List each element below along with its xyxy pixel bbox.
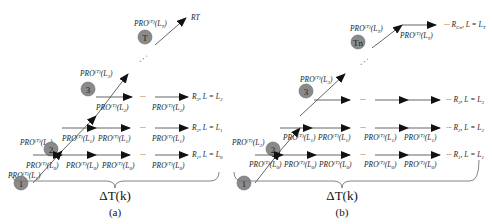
b-row2-label-1: PRO(T)(L1) — [282, 133, 316, 143]
b-top-end: ··· RCn, L = LT — [444, 20, 487, 30]
end-label-RT: RT — [190, 13, 201, 22]
b-row1-label-3: PRO(T)(L0) — [318, 160, 352, 170]
row1-label-4: PRO(T)(L0) — [151, 161, 185, 171]
b-delta-t-label: ΔT(k) — [326, 188, 357, 203]
row2-label-2: PRO(T)(L1) — [97, 134, 131, 144]
dots-icon: ⋰ — [139, 54, 147, 63]
row1-label-2: PRO(T)(L0) — [65, 161, 99, 171]
b-node-Tn: Tn — [351, 35, 365, 49]
b-row1-label-4: PRO(T)(L0) — [363, 160, 397, 170]
delta-t-brace — [11, 172, 219, 188]
row1-end: R1, L = L0 — [191, 150, 223, 160]
row2-end: R2, L = L1 — [191, 123, 222, 133]
b-row3-ellipsis: ··· — [360, 95, 366, 104]
node-2: 2 — [44, 142, 58, 156]
panel-b: ⋰ ··· RCn, L = LT PRO(T)(LT) PRO(T)(LT) … — [231, 20, 487, 219]
panel-a: ⋰ RT PRO(T)(L1) PRO(T)(L2) PRO(T)(L3) PR… — [7, 13, 223, 219]
b-row2-label-2: PRO(T)(L1) — [317, 133, 351, 143]
row1-label-1: PRO(T)(L0) — [25, 161, 59, 171]
svg-text:T: T — [142, 33, 148, 43]
b-row1-label-2: PRO(T)(L0) — [283, 160, 317, 170]
b-row2-ellipsis: ··· — [360, 123, 366, 132]
b-row1-ellipsis: ··· — [360, 150, 366, 159]
b-row1-label-1: PRO(T)(L0) — [248, 160, 282, 170]
row3-label-2: PRO(T)(L2) — [151, 103, 185, 113]
row3-label-1: PRO(T)(L2) — [95, 103, 129, 113]
b-row2-label-4: PRO(T)(L1) — [403, 133, 437, 143]
b-dots-icon: ⋰ — [360, 57, 368, 66]
svg-text:3: 3 — [304, 87, 309, 97]
caption-a: (a) — [109, 206, 122, 219]
b-diag-label-L2: PRO(T)(L2) — [231, 138, 265, 148]
diag-label-LT: PRO(T)(LT) — [133, 19, 167, 29]
b-node-2: 2 — [266, 142, 280, 156]
caption-b: (b) — [336, 206, 349, 219]
diag-label-L3: PRO(T)(L3) — [79, 69, 113, 79]
svg-text:Tn: Tn — [353, 38, 363, 48]
b-diag-label-LT: PRO(T)(LT) — [349, 24, 383, 34]
row3-ellipsis: ··· — [140, 92, 146, 101]
process-route-diagram: ⋰ RT PRO(T)(L1) PRO(T)(L2) PRO(T)(L3) PR… — [0, 0, 492, 224]
row3-end: R3, L = L2 — [191, 92, 223, 102]
svg-text:3: 3 — [86, 85, 91, 95]
b-row1-label-5: PRO(T)(L0) — [403, 160, 437, 170]
row2-label-1: PRO(T)(L1) — [61, 134, 95, 144]
node-1: 1 — [14, 176, 28, 190]
svg-text:1: 1 — [242, 179, 247, 189]
svg-text:2: 2 — [271, 145, 276, 155]
row1-ellipsis: ··· — [140, 150, 146, 159]
svg-text:1: 1 — [19, 179, 24, 189]
delta-t-label: ΔT(k) — [99, 188, 130, 203]
svg-text:2: 2 — [49, 145, 54, 155]
b-top-label: PRO(T)(LT) — [399, 31, 433, 41]
b-row3-end: ··· R3, L = L3 — [446, 95, 484, 105]
row2-ellipsis: ··· — [140, 123, 146, 132]
b-row1-end: ··· R1, L = L1 — [446, 150, 484, 160]
b-node-3: 3 — [299, 84, 313, 98]
b-diag-label-L3: PRO(T)(L3) — [299, 75, 333, 85]
node-3: 3 — [81, 82, 95, 96]
row2-label-3: PRO(T)(L1) — [151, 134, 185, 144]
b-node-1: 1 — [237, 176, 251, 190]
b-row2-end: ··· R2, L = L2 — [446, 123, 484, 133]
b-row2-label-3: PRO(T)(L1) — [363, 133, 397, 143]
node-T: T — [138, 30, 152, 44]
row1-label-3: PRO(T)(L0) — [101, 161, 135, 171]
